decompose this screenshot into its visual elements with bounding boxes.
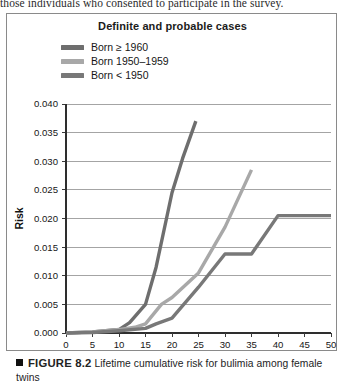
chart-svg: 0.0000.0050.0100.0150.0200.0250.0300.035… [7, 14, 338, 352]
plot-area: 0.0000.0050.0100.0150.0200.0250.0300.035… [7, 14, 338, 352]
caption-figure-number: FIGURE 8.2 [28, 357, 92, 369]
x-tick-label: 15 [140, 339, 151, 350]
figure-box: Definite and probable cases Born ≥ 1960 … [6, 13, 337, 351]
y-tick-label: 0.015 [34, 242, 58, 253]
x-tick-label: 10 [114, 339, 125, 350]
series-line-0 [66, 121, 196, 333]
y-tick-label: 0.000 [34, 327, 58, 338]
y-axis-title: Risk [13, 207, 25, 229]
y-tick-label: 0.020 [34, 213, 58, 224]
x-tick-label: 30 [220, 339, 231, 350]
surrounding-body-text: those individuals who consented to parti… [0, 0, 344, 11]
x-tick-label: 50 [326, 339, 337, 350]
x-tick-label: 45 [299, 339, 310, 350]
figure-caption: FIGURE 8.2 Lifetime cumulative risk for … [16, 357, 336, 384]
x-tick-label: 0 [63, 339, 68, 350]
x-tick-label: 20 [167, 339, 178, 350]
x-tick-label: 35 [246, 339, 257, 350]
x-tick-label: 40 [273, 339, 284, 350]
y-tick-label: 0.035 [34, 127, 58, 138]
y-tick-label: 0.030 [34, 156, 58, 167]
x-tick-label: 25 [193, 339, 204, 350]
y-tick-label: 0.005 [34, 299, 58, 310]
y-tick-label: 0.025 [34, 184, 58, 195]
y-tick-label: 0.010 [34, 270, 58, 281]
x-tick-label: 5 [90, 339, 95, 350]
y-tick-label: 0.040 [34, 98, 58, 109]
caption-square-icon [16, 359, 23, 366]
